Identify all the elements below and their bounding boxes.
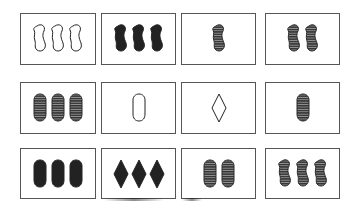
squiggle-open-icon	[32, 24, 48, 54]
squiggle-striped-icon	[304, 24, 320, 54]
card-1-open-diamond[interactable]	[181, 82, 256, 134]
diamond-solid-icon	[113, 159, 129, 189]
oval-solid-icon	[68, 159, 84, 189]
card-3-open-squiggle[interactable]	[20, 13, 96, 65]
diamond-open-icon	[211, 93, 227, 123]
oval-striped-icon	[295, 93, 311, 123]
diamond-solid-icon	[131, 159, 147, 189]
squiggle-open-icon	[50, 24, 66, 54]
squiggle-solid-icon	[149, 24, 165, 54]
squiggle-solid-icon	[113, 24, 129, 54]
oval-striped-icon	[220, 159, 236, 189]
oval-striped-icon	[202, 159, 218, 189]
card-3-striped-oval[interactable]	[20, 82, 96, 134]
oval-striped-icon	[32, 93, 48, 123]
card-1-striped-oval[interactable]	[265, 82, 340, 134]
oval-solid-icon	[32, 159, 48, 189]
squiggle-solid-icon	[131, 24, 147, 54]
diamond-solid-icon	[149, 159, 165, 189]
card-3-solid-oval[interactable]	[20, 148, 96, 199]
squiggle-striped-icon	[295, 159, 311, 189]
squiggle-striped-icon	[211, 24, 227, 54]
oval-striped-icon	[68, 93, 84, 123]
card-1-striped-squiggle[interactable]	[181, 13, 256, 65]
oval-striped-icon	[50, 93, 66, 123]
card-2-striped-oval[interactable]	[181, 148, 256, 199]
card-shadow	[182, 198, 202, 201]
squiggle-open-icon	[68, 24, 84, 54]
game-board	[0, 0, 357, 210]
squiggle-striped-icon	[277, 159, 293, 189]
card-3-solid-diamond[interactable]	[101, 148, 176, 199]
card-3-striped-squiggle[interactable]	[265, 148, 340, 199]
card-3-solid-squiggle[interactable]	[101, 13, 176, 65]
card-2-striped-squiggle[interactable]	[265, 13, 340, 65]
oval-solid-icon	[50, 159, 66, 189]
card-1-open-oval[interactable]	[101, 82, 176, 134]
oval-open-icon	[131, 93, 147, 123]
card-shadow	[104, 198, 164, 201]
squiggle-striped-icon	[286, 24, 302, 54]
squiggle-striped-icon	[313, 159, 329, 189]
